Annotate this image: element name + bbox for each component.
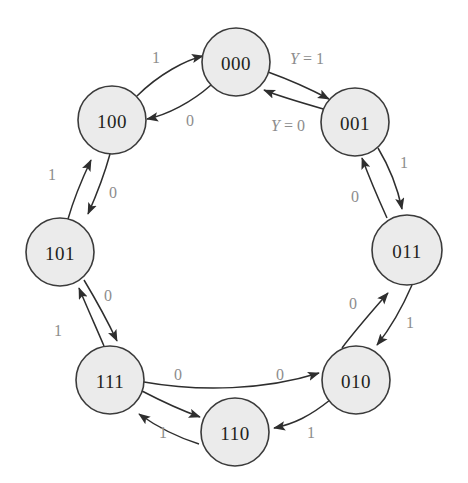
state-label-111: 111 xyxy=(96,371,125,392)
state-node-001[interactable]: 001 xyxy=(321,88,389,156)
state-node-100[interactable]: 100 xyxy=(78,86,146,154)
state-label-000: 000 xyxy=(221,53,251,74)
state-node-101[interactable]: 101 xyxy=(26,218,94,286)
edge-000-to-100 xyxy=(147,85,211,119)
edge-010-to-110 xyxy=(274,400,330,428)
edge-label-010-to-011: 0 xyxy=(349,295,357,312)
state-label-100: 100 xyxy=(97,111,127,132)
edge-101-to-100 xyxy=(68,160,91,219)
edge-001-to-011 xyxy=(378,148,402,209)
edge-111-to-110 xyxy=(142,391,200,417)
edge-label-011-to-001: 0 xyxy=(351,188,359,205)
state-nodes-layer: 000 001 011 010 110 111 101 100 xyxy=(26,28,442,466)
edge-label-000-to-100: 0 xyxy=(186,112,194,129)
edge-label-100-to-101: 0 xyxy=(109,184,117,201)
state-node-000[interactable]: 000 xyxy=(202,28,270,96)
state-node-110[interactable]: 110 xyxy=(201,398,269,466)
state-label-101: 101 xyxy=(45,243,75,264)
edge-label-010-to-110: 1 xyxy=(307,424,315,441)
edge-label-000-to-001: Y = 1 xyxy=(290,50,324,67)
edge-label-101-to-100: 1 xyxy=(48,166,56,183)
state-label-001: 001 xyxy=(340,113,370,134)
edge-label-111-to-010: 0 xyxy=(276,366,284,383)
edge-label-001-to-000: Y = 0 xyxy=(271,117,305,134)
edge-011-to-001 xyxy=(362,158,387,218)
edge-111-to-101 xyxy=(79,288,104,346)
edge-label-101-to-111: 0 xyxy=(104,287,112,304)
edge-label-111-to-101: 1 xyxy=(54,322,62,339)
edge-110-to-111 xyxy=(139,414,199,444)
state-label-110: 110 xyxy=(220,423,249,444)
state-node-010[interactable]: 010 xyxy=(322,346,390,414)
edge-label-001-to-011: 1 xyxy=(400,154,408,171)
edge-100-to-000 xyxy=(137,56,203,96)
state-label-010: 010 xyxy=(341,371,371,392)
state-diagram-container: 1 0 Y = 1 Y = 0 1 0 0 1 1 0 0 1 1 0 1 0 … xyxy=(0,0,468,483)
state-label-011: 011 xyxy=(392,241,421,262)
edge-label-011-to-010: 1 xyxy=(406,314,414,331)
edge-100-to-101 xyxy=(88,154,110,214)
edge-label-100-to-000: 1 xyxy=(152,49,160,66)
state-node-111[interactable]: 111 xyxy=(76,346,144,414)
state-transition-diagram: 1 0 Y = 1 Y = 0 1 0 0 1 1 0 0 1 1 0 1 0 … xyxy=(0,0,468,483)
edge-label-110-to-111: 1 xyxy=(159,424,167,441)
edge-label-111-to-110: 0 xyxy=(174,366,182,383)
edge-111-to-010 xyxy=(144,373,319,388)
state-node-011[interactable]: 011 xyxy=(372,215,442,285)
